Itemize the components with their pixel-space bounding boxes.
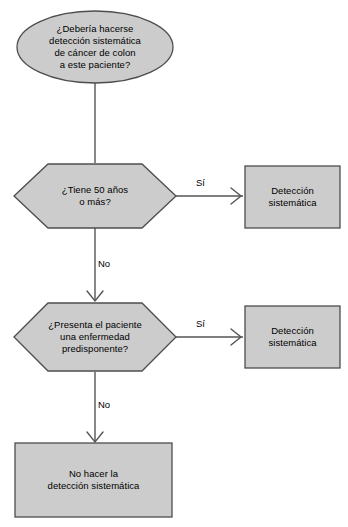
node-start[interactable] (17, 11, 173, 83)
edge-label-age-no: No (98, 258, 110, 269)
node-outcome-screen-age[interactable] (245, 166, 340, 228)
edge-label-age-yes: Sí (196, 177, 205, 188)
flowchart-canvas: ¿Debería hacerse detección sistemática d… (0, 0, 348, 527)
node-outcome-no-screen[interactable] (15, 443, 172, 517)
edge-label-disease-no: No (98, 399, 110, 410)
node-decision-disease[interactable] (14, 303, 176, 371)
node-decision-age[interactable] (14, 164, 176, 228)
node-outcome-screen-disease[interactable] (245, 306, 340, 368)
edge-label-disease-yes: Sí (196, 318, 205, 329)
